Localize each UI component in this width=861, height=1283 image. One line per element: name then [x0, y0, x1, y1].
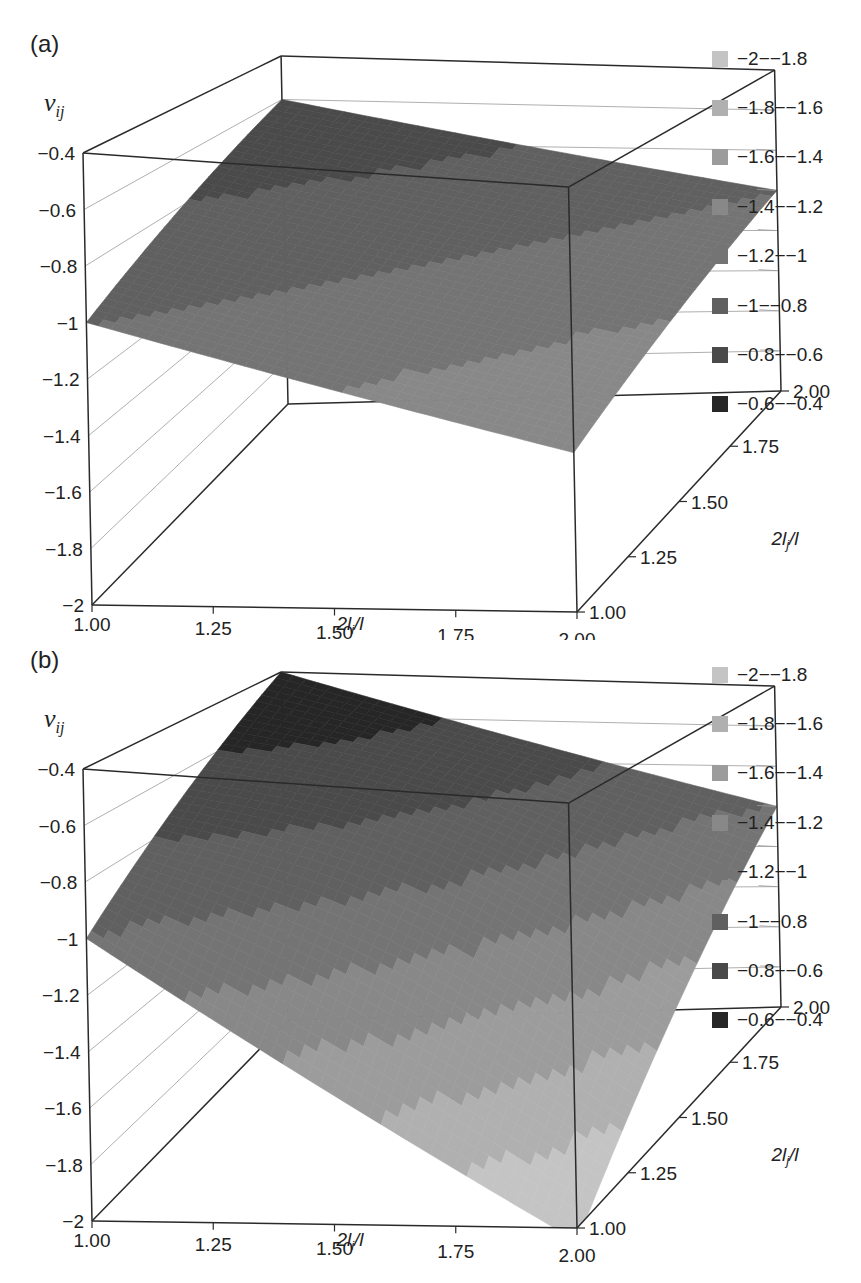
- svg-text:−0.4: −0.4: [37, 143, 75, 164]
- legend-label: −0.6−−0.4: [737, 1009, 823, 1031]
- legend-swatch: [712, 298, 728, 314]
- legend-label: −1.6−−1.4: [737, 762, 823, 784]
- legend-swatch: [712, 864, 728, 880]
- legend-swatch: [712, 248, 728, 264]
- legend-item: −1−−0.8: [712, 897, 823, 946]
- svg-text:−2: −2: [62, 1211, 84, 1232]
- legend-item: −0.6−−0.4: [712, 996, 823, 1045]
- legend-label: −1.2−−1: [737, 861, 807, 883]
- legend-swatch: [712, 716, 728, 732]
- legend-swatch: [712, 100, 728, 116]
- legend-item: −0.6−−0.4: [712, 380, 823, 429]
- legend-label: −2−−1.8: [737, 664, 807, 686]
- svg-text:−2: −2: [62, 595, 84, 616]
- legend-swatch: [712, 199, 728, 215]
- legend-item: −1.2−−1: [712, 232, 823, 281]
- svg-text:1.25: 1.25: [640, 547, 677, 568]
- svg-text:−1: −1: [57, 929, 79, 950]
- legend-swatch: [712, 765, 728, 781]
- legend-item: −1.6−−1.4: [712, 133, 823, 182]
- svg-text:−1: −1: [57, 313, 79, 334]
- svg-text:−0.6: −0.6: [39, 200, 77, 221]
- svg-text:−1.4: −1.4: [43, 426, 81, 447]
- legend-label: −1−−0.8: [737, 295, 807, 317]
- legend-swatch: [712, 815, 728, 831]
- svg-text:1.75: 1.75: [742, 436, 779, 457]
- legend-label: −1.4−−1.2: [737, 812, 823, 834]
- panel-label: (b): [30, 646, 59, 674]
- svg-text:1.00: 1.00: [589, 1218, 626, 1239]
- panel-b: −0.4−0.6−0.8−1−1.2−1.4−1.6−1.8−21.001.25…: [0, 616, 861, 1283]
- svg-text:1.75: 1.75: [437, 1241, 474, 1262]
- svg-text:2li/l: 2li/l: [335, 1229, 364, 1253]
- legend-label: −1.2−−1: [737, 245, 807, 267]
- legend-label: −1.8−−1.6: [737, 97, 823, 119]
- svg-text:−0.8: −0.8: [40, 256, 78, 277]
- svg-text:−1.6: −1.6: [44, 482, 82, 503]
- legend-swatch: [712, 396, 728, 412]
- legend-item: −1.6−−1.4: [712, 749, 823, 798]
- svg-text:−1.2: −1.2: [42, 369, 80, 390]
- svg-text:1.25: 1.25: [195, 1234, 232, 1255]
- legend: −2−−1.8 −1.8−−1.6 −1.6−−1.4 −1.4−−1.2 −1…: [712, 34, 823, 429]
- z-axis-title: νij: [44, 88, 64, 121]
- svg-text:1.50: 1.50: [691, 492, 728, 513]
- surface: [86, 672, 777, 1228]
- panel-label: (a): [30, 30, 59, 58]
- svg-text:1.00: 1.00: [74, 1230, 111, 1251]
- legend-label: −2−−1.8: [737, 48, 807, 70]
- svg-text:1.50: 1.50: [691, 1108, 728, 1129]
- panel-a: −0.4−0.6−0.8−1−1.2−1.4−1.6−1.8−21.001.25…: [0, 0, 861, 640]
- legend-swatch: [712, 963, 728, 979]
- svg-text:−0.4: −0.4: [37, 759, 75, 780]
- svg-text:−0.8: −0.8: [40, 872, 78, 893]
- svg-text:−0.6: −0.6: [39, 816, 77, 837]
- svg-text:−1.2: −1.2: [42, 985, 80, 1006]
- svg-text:1.25: 1.25: [640, 1163, 677, 1184]
- svg-text:2lj/l: 2lj/l: [770, 1144, 799, 1168]
- legend-item: −1.8−−1.6: [712, 699, 823, 748]
- legend-item: −2−−1.8: [712, 34, 823, 83]
- svg-text:−1.8: −1.8: [45, 539, 83, 560]
- legend-item: −0.8−−0.6: [712, 946, 823, 995]
- svg-text:2.00: 2.00: [559, 1245, 596, 1266]
- legend-item: −1.2−−1: [712, 848, 823, 897]
- legend-item: −1−−0.8: [712, 281, 823, 330]
- svg-text:−1.8: −1.8: [45, 1155, 83, 1176]
- legend: −2−−1.8 −1.8−−1.6 −1.6−−1.4 −1.4−−1.2 −1…: [712, 650, 823, 1045]
- legend-swatch: [712, 914, 728, 930]
- legend-label: −1−−0.8: [737, 911, 807, 933]
- legend-label: −1.6−−1.4: [737, 146, 823, 168]
- legend-item: −1.8−−1.6: [712, 83, 823, 132]
- legend-swatch: [712, 347, 728, 363]
- legend-swatch: [712, 51, 728, 67]
- surface: [86, 100, 777, 453]
- legend-swatch: [712, 149, 728, 165]
- legend-label: −0.8−−0.6: [737, 344, 823, 366]
- legend-label: −1.4−−1.2: [737, 196, 823, 218]
- svg-text:2lj/l: 2lj/l: [770, 528, 799, 552]
- legend-label: −0.8−−0.6: [737, 960, 823, 982]
- legend-item: −2−−1.8: [712, 650, 823, 699]
- z-axis-title: νij: [44, 704, 64, 737]
- legend-swatch: [712, 667, 728, 683]
- svg-text:−1.6: −1.6: [44, 1098, 82, 1119]
- legend-item: −1.4−−1.2: [712, 798, 823, 847]
- legend-item: −1.4−−1.2: [712, 182, 823, 231]
- legend-label: −0.6−−0.4: [737, 393, 823, 415]
- svg-text:−1.4: −1.4: [43, 1042, 81, 1063]
- legend-swatch: [712, 1012, 728, 1028]
- legend-label: −1.8−−1.6: [737, 713, 823, 735]
- svg-text:1.75: 1.75: [742, 1052, 779, 1073]
- legend-item: −0.8−−0.6: [712, 330, 823, 379]
